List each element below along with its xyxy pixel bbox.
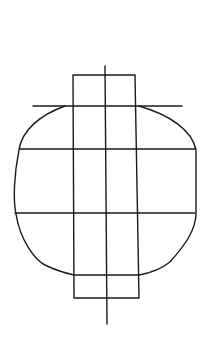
center-axis [105,66,107,324]
diagram-canvas [0,0,211,345]
